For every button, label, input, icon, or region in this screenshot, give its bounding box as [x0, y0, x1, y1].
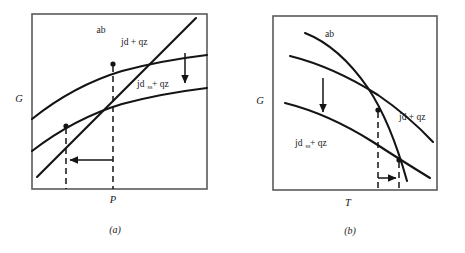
- panel-a: ab jd + qz jd ss + qz G P (a): [0, 0, 232, 253]
- panel-b-svg: ab jd + qz jd ss + qz G T (b): [233, 0, 465, 253]
- panel-a-intersection-upper: [110, 61, 115, 66]
- panel-b-intersection-lower: [396, 157, 401, 162]
- panel-b-label-jdss-qz: jd ss + qz: [294, 138, 327, 149]
- panel-b-caption: (b): [344, 225, 356, 237]
- panel-b-x-axis-label: T: [345, 197, 352, 208]
- panel-a-label-jd-qz: jd + qz: [120, 37, 147, 47]
- panel-a-svg: ab jd + qz jd ss + qz G P (a): [0, 0, 232, 253]
- panel-b-intersection-upper: [375, 107, 380, 112]
- panel-a-caption: (a): [109, 224, 121, 236]
- panel-a-intersection-lower: [63, 123, 68, 128]
- panel-a-label-jdss-tail: + qz: [152, 79, 169, 89]
- figure-container: ab jd + qz jd ss + qz G P (a): [0, 0, 465, 253]
- panel-b-label-jdss-tail: + qz: [310, 138, 327, 148]
- panel-a-frame: [32, 14, 207, 189]
- panel-a-label-jdss-main: jd: [136, 79, 145, 89]
- panel-a-label-jdss-qz: jd ss + qz: [136, 79, 169, 90]
- panel-a-y-axis-label: G: [15, 93, 23, 104]
- panel-b-y-axis-label: G: [256, 95, 264, 106]
- panel-b: ab jd + qz jd ss + qz G T (b): [233, 0, 465, 253]
- panel-b-label-jdss-main: jd: [294, 138, 303, 148]
- panel-b-label-jd-qz: jd + qz: [398, 112, 425, 122]
- panel-a-x-axis-label: P: [109, 194, 117, 205]
- panel-b-label-ab: ab: [325, 29, 334, 39]
- panel-a-plot: ab jd + qz jd ss + qz G P (a): [0, 0, 232, 253]
- panel-b-frame: [273, 16, 437, 190]
- panel-b-plot: ab jd + qz jd ss + qz G T (b): [233, 0, 465, 253]
- panel-a-label-ab: ab: [97, 25, 106, 35]
